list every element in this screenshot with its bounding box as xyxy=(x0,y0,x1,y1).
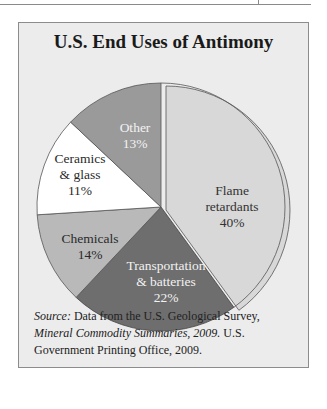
label-ceramics-line1: Ceramics xyxy=(55,151,106,166)
source-note: Source: Data from the U.S. Geological Su… xyxy=(34,308,299,359)
source-italic-title: Mineral Commodity Summaries, 2009. xyxy=(34,326,220,340)
page-top-tick xyxy=(258,0,259,4)
chart-figure: U.S. End Uses of Antimony Flame retardan… xyxy=(18,22,309,368)
label-other-line1: Other xyxy=(120,120,151,135)
source-text-1: Data from the U.S. Geological Survey, xyxy=(71,309,260,323)
label-other-pct: 13% xyxy=(123,136,148,151)
label-ceramics-pct: 11% xyxy=(68,183,92,198)
label-flame-line2: retardants xyxy=(205,199,258,214)
source-prefix: Source: xyxy=(34,309,71,323)
label-flame-line1: Flame xyxy=(215,183,249,198)
page-top-rule xyxy=(0,4,311,5)
label-transport-pct: 22% xyxy=(154,290,179,305)
label-transport-line2: & batteries xyxy=(136,274,196,289)
label-chemicals-pct: 14% xyxy=(78,247,103,262)
label-chemicals-line1: Chemicals xyxy=(62,231,119,246)
label-ceramics-line2: & glass xyxy=(60,167,101,182)
label-flame-pct: 40% xyxy=(220,215,245,230)
label-transport-line1: Transportation xyxy=(126,258,205,273)
